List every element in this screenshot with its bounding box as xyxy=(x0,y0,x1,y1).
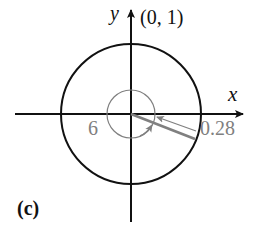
point-label: (0, 1) xyxy=(140,6,183,29)
value-label: 0.28 xyxy=(200,117,235,140)
rotation-arrow-icon xyxy=(140,125,152,136)
return-arrow xyxy=(157,117,196,131)
unit-circle-diagram xyxy=(0,0,263,232)
angle-label: 6 xyxy=(88,117,98,140)
x-axis-label: x xyxy=(228,82,237,107)
y-axis-label: y xyxy=(110,2,119,25)
panel-label: (c) xyxy=(17,197,39,220)
